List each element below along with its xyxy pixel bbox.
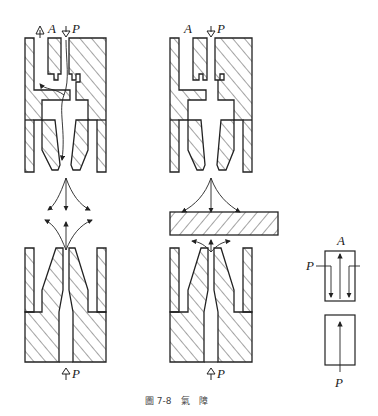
blocking-object-plate <box>170 212 278 235</box>
symbol-p-bottom-label: P <box>334 375 343 390</box>
supply-p-arrow-icon <box>62 368 70 380</box>
port-p-label: P <box>71 21 80 36</box>
diagram-middle: A P <box>170 21 278 381</box>
upper-valve-body <box>25 38 106 172</box>
symbol-p-side-label: P <box>305 258 314 273</box>
port-a-out-arrow-icon <box>36 26 44 38</box>
port-p-in-arrow-icon <box>207 26 215 37</box>
lower-valve-body <box>170 248 252 362</box>
pneumatic-symbol: A P P <box>305 233 360 390</box>
symbol-a-label: A <box>336 233 345 248</box>
supply-p-label: P <box>216 366 225 381</box>
figure-canvas: A P <box>0 0 378 416</box>
port-p-in-arrow-icon <box>62 26 70 37</box>
jet-arrows <box>45 178 92 250</box>
port-p-label: P <box>216 21 225 36</box>
supply-p-label: P <box>71 366 80 381</box>
figure-caption: 圖 7-8 氣 障 <box>145 395 208 406</box>
port-a-label: A <box>47 21 56 36</box>
lower-valve-body <box>25 248 106 362</box>
diagram-left: A P <box>25 21 106 381</box>
port-a-label: A <box>183 21 192 36</box>
upper-valve-body <box>170 38 252 172</box>
supply-p-arrow-icon <box>207 368 215 380</box>
